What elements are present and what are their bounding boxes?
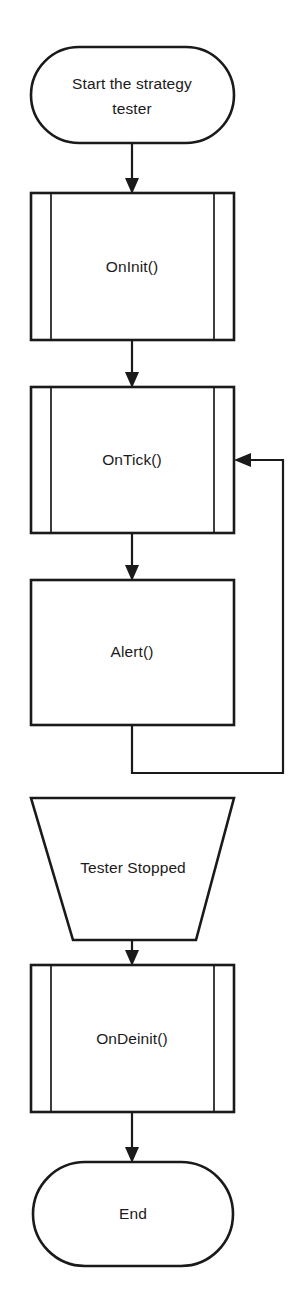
start-node-shape [31, 47, 234, 143]
node-start[interactable]: Start the strategy tester [31, 47, 234, 143]
alert-node-label: Alert() [111, 643, 154, 660]
edge-start-to-oninit [125, 143, 139, 194]
arrowhead-icon [125, 178, 139, 194]
arrowhead-icon [125, 565, 139, 581]
start-node-label-line2: tester [112, 100, 151, 117]
ondeinit-node-label: OnDeinit() [96, 1030, 168, 1047]
tester-stopped-node-label: Tester Stopped [80, 859, 186, 876]
arrowhead-icon [125, 372, 139, 388]
node-end[interactable]: End [33, 1162, 233, 1266]
oninit-node-label: OnInit() [106, 258, 158, 275]
flowchart-svg: Start the strategy tester OnInit() OnTic… [0, 0, 301, 1309]
arrowhead-icon [234, 453, 251, 467]
flowchart-canvas: Start the strategy tester OnInit() OnTic… [0, 0, 301, 1309]
start-node-label-line1: Start the strategy [72, 75, 192, 92]
end-node-label: End [119, 1205, 147, 1222]
edge-oninit-to-ontick [125, 340, 139, 388]
arrowhead-icon [125, 1147, 139, 1163]
edge-tester-stopped-to-ondeinit [125, 940, 139, 966]
edge-ontick-to-alert [125, 533, 139, 581]
edge-ondeinit-to-end [125, 1112, 139, 1163]
node-alert[interactable]: Alert() [31, 580, 234, 725]
node-oninit[interactable]: OnInit() [31, 193, 234, 340]
node-tester-stopped[interactable]: Tester Stopped [31, 798, 234, 940]
node-ondeinit[interactable]: OnDeinit() [31, 965, 234, 1112]
node-ontick[interactable]: OnTick() [31, 387, 234, 533]
arrowhead-icon [125, 950, 139, 966]
ontick-node-label: OnTick() [102, 451, 162, 468]
